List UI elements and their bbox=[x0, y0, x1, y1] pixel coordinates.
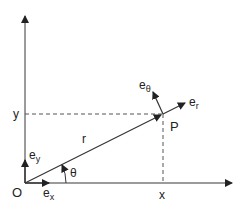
polar-diagram: O x y r P θ ex ey er eθ bbox=[0, 0, 244, 209]
ey-label: ey bbox=[29, 148, 41, 164]
y-label: y bbox=[13, 107, 19, 121]
er-label: er bbox=[189, 95, 199, 111]
x-label: x bbox=[159, 188, 165, 202]
origin-label: O bbox=[12, 185, 22, 200]
etheta-label: eθ bbox=[139, 78, 151, 94]
angle-arc bbox=[62, 165, 66, 183]
point-label: P bbox=[170, 119, 179, 134]
angle-label: θ bbox=[70, 166, 77, 180]
ex-label: ex bbox=[43, 186, 55, 202]
radius-label: r bbox=[82, 132, 86, 146]
er-vector bbox=[163, 103, 185, 114]
radius-line bbox=[25, 115, 161, 183]
etheta-vector bbox=[153, 92, 163, 114]
